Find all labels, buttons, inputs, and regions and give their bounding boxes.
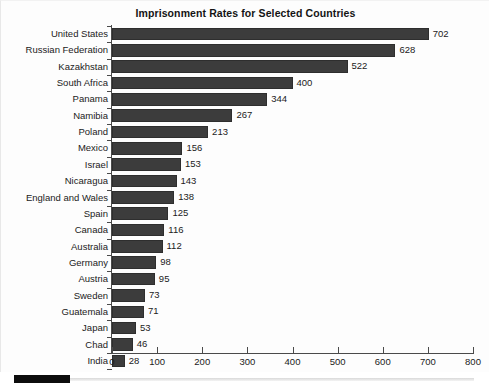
x-axis-tick: [473, 347, 474, 353]
x-axis-tick: [428, 347, 429, 353]
category-label: Namibia: [4, 110, 108, 121]
horizontal-scrollbar[interactable]: [0, 374, 489, 386]
x-axis-tick-label: 600: [363, 356, 403, 367]
bar: [112, 158, 181, 171]
x-axis-tick: [247, 347, 248, 353]
category-label: England and Wales: [4, 192, 108, 203]
bar: [112, 191, 174, 204]
bar-value-label: 73: [149, 289, 160, 302]
bar: [112, 28, 429, 41]
y-axis-tick: [107, 369, 112, 370]
x-axis-tick-label: 200: [182, 356, 222, 367]
bar-row: 53: [112, 320, 473, 336]
x-axis-tick-label: 700: [408, 356, 448, 367]
category-label: Japan: [4, 322, 108, 333]
bar: [112, 44, 395, 57]
bar-row: 628: [112, 42, 473, 58]
bar-value-label: 267: [236, 109, 252, 122]
bar-value-label: 95: [159, 273, 170, 286]
bar-row: 98: [112, 255, 473, 271]
bar-row: 138: [112, 190, 473, 206]
bar: [112, 126, 208, 139]
bar-row: 116: [112, 222, 473, 238]
bar-value-label: 156: [186, 142, 202, 155]
bar-row: 125: [112, 206, 473, 222]
category-label: Guatemala: [4, 306, 108, 317]
bar-row: 112: [112, 239, 473, 255]
x-axis-tick-label: 0: [92, 356, 132, 367]
category-label: Austria: [4, 273, 108, 284]
bar-value-label: 344: [271, 93, 287, 106]
x-axis-tick-label: 100: [137, 356, 177, 367]
bar-row: 73: [112, 288, 473, 304]
bar-row: 153: [112, 157, 473, 173]
category-axis-labels: United StatesRussian FederationKazakhsta…: [1, 26, 108, 353]
bar: [112, 77, 293, 90]
chart-figure: Imprisonment Rates for Selected Countrie…: [0, 0, 489, 372]
bar-row: 522: [112, 59, 473, 75]
bar: [112, 338, 133, 351]
bar-value-label: 53: [140, 322, 151, 335]
bar-value-label: 98: [160, 256, 171, 269]
bar-row: 156: [112, 140, 473, 156]
bar-row: 71: [112, 304, 473, 320]
bar-row: 213: [112, 124, 473, 140]
bar-value-label: 71: [148, 305, 159, 318]
category-label: Russian Federation: [4, 44, 108, 55]
bar: [112, 273, 155, 286]
bar-value-label: 112: [167, 240, 182, 253]
bar: [112, 256, 156, 269]
bar: [112, 175, 177, 188]
bar-value-label: 153: [185, 158, 201, 171]
x-axis-tick: [112, 347, 113, 353]
x-axis-tick: [157, 347, 158, 353]
category-label: Australia: [4, 241, 108, 252]
bar: [112, 142, 182, 155]
bar-value-label: 400: [297, 77, 313, 90]
x-axis-tick-label: 300: [227, 356, 267, 367]
bar-value-label: 702: [433, 28, 449, 41]
category-label: South Africa: [4, 77, 108, 88]
bar: [112, 240, 163, 253]
bar: [112, 109, 232, 122]
x-axis-tick: [383, 347, 384, 353]
x-axis-tick-label: 500: [318, 356, 358, 367]
x-axis-tick-label: 400: [273, 356, 313, 367]
x-axis-tick-label: 800: [453, 356, 489, 367]
bar-row: 95: [112, 271, 473, 287]
category-label: Kazakhstan: [4, 61, 108, 72]
bar: [112, 224, 164, 237]
bar-value-label: 46: [137, 338, 148, 351]
bar-value-label: 138: [178, 191, 194, 204]
category-label: Mexico: [4, 142, 108, 153]
category-label: Spain: [4, 208, 108, 219]
category-label: Canada: [4, 224, 108, 235]
bar: [112, 306, 144, 319]
category-label: Germany: [4, 257, 108, 268]
category-label: Chad: [4, 339, 108, 350]
bar-value-label: 125: [172, 207, 188, 220]
bar-row: 400: [112, 75, 473, 91]
bar-row: 344: [112, 91, 473, 107]
category-label: Nicaragua: [4, 175, 108, 186]
bar-value-label: 522: [352, 60, 368, 73]
category-label: Sweden: [4, 290, 108, 301]
scrollbar-thumb[interactable]: [14, 375, 70, 383]
bar: [112, 93, 267, 106]
category-label: Poland: [4, 126, 108, 137]
scrollbar-track[interactable]: [14, 378, 474, 381]
plot-area: 7026285224003442672131561531431381251161…: [112, 26, 473, 353]
bar: [112, 60, 348, 73]
bar-value-label: 143: [181, 175, 197, 188]
bar-row: 702: [112, 26, 473, 42]
category-label: United States: [4, 28, 108, 39]
bar-value-label: 213: [212, 126, 228, 139]
bar-value-label: 116: [168, 224, 183, 237]
chart-title: Imprisonment Rates for Selected Countrie…: [1, 7, 489, 19]
x-axis-tick: [293, 347, 294, 353]
bar: [112, 322, 136, 335]
bar: [112, 289, 145, 302]
category-label: Israel: [4, 159, 108, 170]
x-axis-tick: [338, 347, 339, 353]
bar-value-label: 628: [399, 44, 415, 57]
